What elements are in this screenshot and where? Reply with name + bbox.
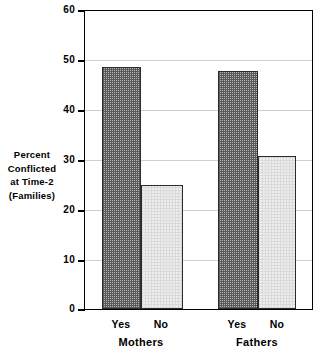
group-label-mothers: Mothers — [98, 336, 184, 348]
y-tick-label-20: 20 — [15, 205, 75, 215]
y-tick-label-0: 0 — [15, 304, 75, 314]
x-tick-label-mothers-no: No — [140, 318, 182, 330]
y-tick-label-30: 30 — [15, 155, 75, 165]
y-tick-label-50: 50 — [15, 55, 75, 65]
x-tick-label-fathers-yes: Yes — [216, 318, 258, 330]
bar-mothers-no[interactable] — [141, 185, 183, 309]
gridline-50 — [85, 60, 312, 61]
group-label-fathers: Fathers — [214, 336, 300, 348]
bar-fathers-no[interactable] — [258, 156, 296, 309]
x-tick-label-fathers-no: No — [256, 318, 298, 330]
y-tick-label-60: 60 — [15, 5, 75, 15]
y-tick-label-10: 10 — [15, 255, 75, 265]
y-axis-title-line-3: at Time-2 — [0, 175, 64, 189]
bar-chart: Percent Conflicted at Time-2 (Families) … — [0, 0, 323, 363]
plot-area — [84, 10, 313, 310]
x-tick-label-mothers-yes: Yes — [100, 318, 142, 330]
bar-fathers-yes[interactable] — [218, 71, 258, 309]
y-tick-label-40: 40 — [15, 105, 75, 115]
y-axis-title-line-4: (Families) — [0, 189, 64, 203]
bar-mothers-yes[interactable] — [102, 67, 141, 309]
